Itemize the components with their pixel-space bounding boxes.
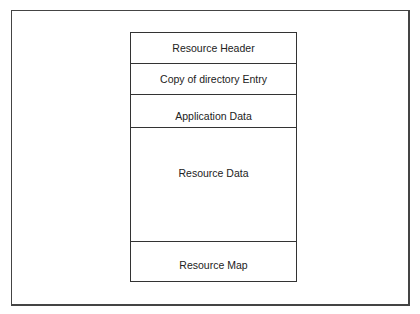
- segment-label: Application Data: [175, 110, 251, 122]
- resource-file-stack: Resource Header Copy of directory Entry …: [130, 32, 297, 282]
- segment-directory-entry: Copy of directory Entry: [131, 63, 296, 94]
- segment-resource-data: Resource Data: [131, 127, 296, 241]
- segment-label: Copy of directory Entry: [160, 73, 267, 85]
- segment-resource-header: Resource Header: [131, 33, 296, 63]
- segment-label: Resource Header: [172, 42, 254, 54]
- segment-label: Resource Map: [179, 259, 247, 271]
- segment-application-data: Application Data: [131, 94, 296, 127]
- segment-label: Resource Data: [178, 167, 248, 179]
- segment-resource-map: Resource Map: [131, 241, 296, 282]
